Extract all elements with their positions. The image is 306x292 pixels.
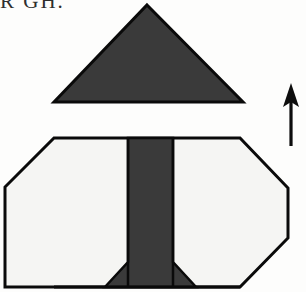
figure-canvas: R GH. (0, 0, 306, 292)
fold-diagram-svg (0, 0, 306, 292)
flap-triangle (54, 5, 243, 102)
direction-arrow-icon (283, 83, 299, 146)
